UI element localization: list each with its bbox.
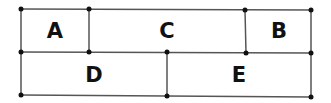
partition-diagram [0, 0, 331, 103]
vertex-dot [87, 7, 92, 12]
vertex-dot [165, 94, 170, 99]
vertex-dot [19, 93, 24, 98]
vertex-dot [165, 50, 170, 55]
vertex-dot [309, 51, 314, 56]
vertex-dot [243, 8, 248, 13]
vertex-dot [19, 7, 24, 12]
top-edge [21, 9, 311, 10]
vertex-dot [87, 50, 92, 55]
vertex-dot [309, 8, 314, 13]
region-label-d: D [85, 65, 102, 86]
region-label-b: B [271, 21, 287, 42]
vertex-dot [19, 50, 24, 55]
region-label-e: E [232, 65, 246, 86]
vertex-dot [309, 95, 314, 100]
divider-c-b [245, 10, 246, 53]
region-label-a: A [47, 21, 63, 42]
region-label-c: C [159, 21, 174, 42]
vertex-dot [244, 51, 249, 56]
